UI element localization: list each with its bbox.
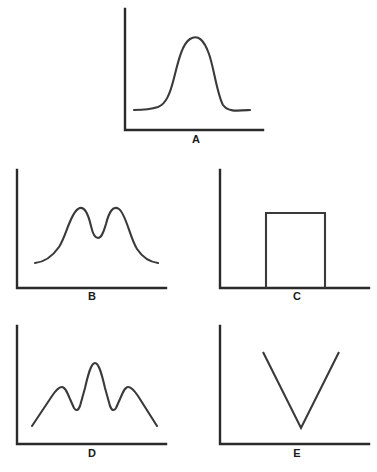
panel-a-axes [125,9,263,130]
panel-e [215,322,373,450]
panel-e-axes [220,326,369,444]
panel-a-curve-bell [134,37,250,110]
panel-b [12,166,170,294]
panel-b-curve-bimodal [35,208,158,263]
panel-c-label: C [282,290,312,302]
panel-d-axes [17,326,166,444]
distribution-shapes-figure: A B C D E [0,0,377,472]
panel-d-label: D [77,447,107,459]
panel-c-uniform-block [266,213,325,288]
panel-a-plot [118,6,266,138]
panel-e-curve-vshape [263,352,339,428]
panel-c [215,166,373,294]
panel-a [118,6,266,138]
panel-c-axes [220,170,369,288]
panel-c-plot [215,166,373,294]
panel-b-label: B [77,290,107,302]
panel-e-plot [215,322,373,450]
panel-b-plot [12,166,170,294]
panel-e-label: E [282,447,312,459]
panel-d [12,322,170,450]
panel-a-label: A [181,133,211,145]
panel-d-curve-trimodal [32,363,157,426]
panel-d-plot [12,322,170,450]
